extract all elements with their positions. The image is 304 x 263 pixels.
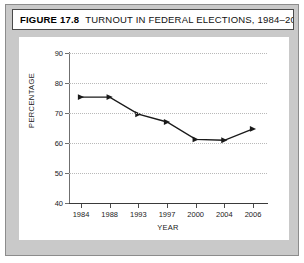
x-axis-tick [167,204,168,208]
y-axis-tick-label: 60 [47,139,63,148]
x-axis-tick [196,204,197,208]
y-axis-tick [65,113,69,114]
figure-title: TURNOUT IN FEDERAL ELECTIONS, 1984–2006 [85,14,294,25]
x-axis-tick [253,204,254,208]
y-axis-tick [65,83,69,84]
x-axis-tick [138,204,139,208]
gridline [69,113,267,114]
x-axis-ticks [69,204,267,209]
series-line [69,53,267,203]
x-axis-title: YEAR [69,223,267,232]
plot-area [69,53,267,203]
gridline [69,173,267,174]
gridline [69,83,267,84]
x-axis-tick-label: 2006 [245,210,262,219]
y-axis-tick-label: 50 [47,169,63,178]
gridline [69,143,267,144]
x-axis-tick-label: 1993 [130,210,147,219]
x-axis-tick [81,204,82,208]
data-point-marker [193,136,199,142]
figure-title-bar: FIGURE 17.8 TURNOUT IN FEDERAL ELECTIONS… [12,9,294,30]
y-axis-tick [65,143,69,144]
figure-page: FIGURE 17.8 TURNOUT IN FEDERAL ELECTIONS… [0,0,304,263]
data-point-marker [250,126,256,132]
figure-number: FIGURE 17.8 [20,14,79,25]
x-axis-tick [224,204,225,208]
y-axis-tick [65,53,69,54]
chart-card: PERCENTAGE 405060708090 1984198819931997… [19,37,289,240]
x-axis-tick-label: 1984 [73,210,90,219]
x-axis-tick [110,204,111,208]
gridline [69,53,267,54]
y-axis-tick-label: 40 [47,199,63,208]
x-axis-tick-label: 1997 [159,210,176,219]
x-axis-tick-label: 2000 [187,210,204,219]
data-point-marker [78,94,84,100]
y-axis-tick-label: 90 [47,49,63,58]
x-axis-labels: 1984198819931997200020042006 [69,210,267,221]
y-axis-tick [65,173,69,174]
y-axis-tick-label: 70 [47,109,63,118]
x-axis-tick-label: 2004 [216,210,233,219]
y-axis-title: PERCENTAGE [27,73,36,128]
y-axis-labels: 405060708090 [45,53,63,203]
x-axis-tick-label: 1988 [101,210,118,219]
series-path [81,97,253,140]
y-axis-tick-label: 80 [47,79,63,88]
